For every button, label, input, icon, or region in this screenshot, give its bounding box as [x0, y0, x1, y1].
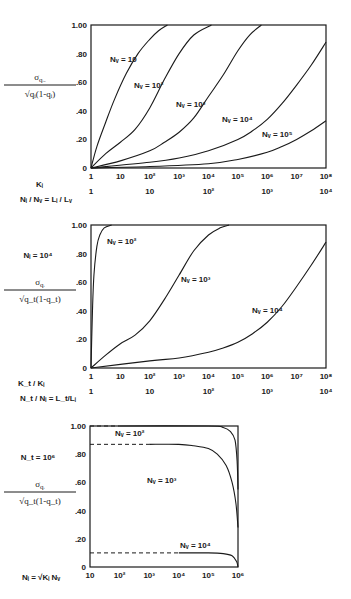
x-tick-label: 10³ — [173, 372, 185, 381]
y-axis-label-denominator: √qᵢ(1-qᵢ) — [25, 89, 55, 99]
series-annotation: Nᵥ = 10³ — [181, 275, 211, 284]
plot-frame — [90, 426, 238, 567]
y-axis-label-numerator: σqᵢ — [35, 479, 45, 491]
x-tick-label-secondary: 10 — [145, 187, 154, 196]
series-line — [91, 25, 261, 168]
y-tick-label: .20 — [75, 535, 87, 544]
x-tick-label: 10 — [116, 172, 125, 181]
x-tick-label-secondary: 10⁴ — [320, 387, 333, 396]
series-annotation: Nᵥ = 10² — [134, 81, 164, 90]
x-tick-label: 10³ — [173, 172, 185, 181]
x-tick-label: 10⁵ — [232, 172, 245, 181]
series-annotation: Nᵥ = 10⁴ — [222, 115, 253, 124]
x-tick-label-secondary: 10³ — [261, 187, 273, 196]
series-annotation: Nᵥ = 10³ — [147, 476, 177, 485]
x-tick-label: 10⁶ — [261, 172, 274, 181]
x-tick-label: 10⁵ — [202, 571, 215, 580]
series-line — [149, 444, 238, 527]
x-tick-label: 10⁶ — [261, 372, 274, 381]
chart-top: 0.20.40.60.801.0011010²10³10⁴10⁵10⁶10⁷10… — [4, 21, 333, 204]
x-tick-label: 1 — [89, 172, 94, 181]
y-tick-label: .40 — [76, 107, 88, 116]
x-tick-label-secondary: 10⁴ — [320, 187, 333, 196]
x-tick-label-secondary: 10³ — [261, 387, 273, 396]
x-axis-label-secondary: Nᵢ / Nᵥ = Lᵢ / Lᵥ — [20, 195, 72, 204]
series-line — [91, 225, 112, 368]
x-tick-label: 10⁴ — [172, 571, 185, 580]
y-tick-label: .60 — [76, 78, 88, 87]
y-axis-label-denominator: √q_t(1-q_t) — [19, 496, 60, 506]
y-tick-label: .60 — [75, 478, 87, 487]
chart-middle: 0.20.40.60.801.0011010²10³10⁴10⁵10⁶10⁷10… — [4, 221, 333, 403]
x-tick-label-secondary: 10² — [203, 187, 215, 196]
series-line — [179, 553, 238, 567]
y-axis-label-numerator: σqᵢᵥ — [34, 72, 47, 84]
x-tick-label: 10⁴ — [202, 372, 215, 381]
x-tick-label: 10⁷ — [291, 172, 303, 181]
parameter-label: N_t = 10⁶ — [21, 453, 56, 462]
series-line — [91, 242, 326, 368]
x-tick-label: 10² — [144, 372, 156, 381]
x-tick-label: 10⁸ — [320, 372, 333, 381]
y-tick-label: .80 — [76, 250, 88, 259]
x-tick-label: 10³ — [143, 571, 155, 580]
series-annotation: Nᵥ = 10² — [107, 237, 137, 246]
y-tick-label: .20 — [76, 135, 88, 144]
figure: 0.20.40.60.801.0011010²10³10⁴10⁵10⁶10⁷10… — [0, 0, 351, 599]
series-line — [91, 225, 229, 368]
series-annotation: Nᵥ = 10⁴ — [180, 541, 211, 550]
x-tick-label: 1 — [89, 372, 94, 381]
x-tick-label: 10² — [114, 571, 126, 580]
x-tick-label-secondary: 10 — [145, 387, 154, 396]
y-tick-label: 1.00 — [71, 221, 87, 230]
y-tick-label: 0 — [83, 164, 88, 173]
x-tick-label-secondary: 1 — [89, 187, 94, 196]
chart-bottom: 0.20.40.60.801.001010²10³10⁴10⁵10⁶Nᵥ = 1… — [4, 422, 245, 582]
x-tick-label: 10⁸ — [320, 172, 333, 181]
series-annotation: Nᵥ = 10⁴ — [252, 306, 283, 315]
y-axis-label-denominator: √q_t(1-q_t) — [19, 294, 60, 304]
series-annotation: Nᵥ = 10⁵ — [262, 130, 293, 139]
y-tick-label: .60 — [76, 278, 88, 287]
x-axis-label-secondary: N_t / Nᵢ = L_t/Lᵢ — [20, 394, 76, 403]
x-tick-label: 10² — [144, 172, 156, 181]
x-tick-label: 10⁵ — [232, 372, 245, 381]
series-annotation: Nᵥ = 10 — [110, 55, 137, 64]
series-annotation: Nᵥ = 10² — [115, 429, 145, 438]
y-tick-label: .80 — [75, 450, 87, 459]
x-tick-label: 10⁴ — [202, 172, 215, 181]
x-tick-label: 10⁶ — [232, 571, 245, 580]
y-axis-label-numerator: σqᵢ — [35, 277, 45, 289]
y-tick-label: 1.00 — [71, 21, 87, 30]
x-axis-label: Nᵢ = √Kᵢ Nᵥ — [22, 573, 60, 582]
x-tick-label: 10 — [116, 372, 125, 381]
x-tick-label-secondary: 10² — [203, 387, 215, 396]
y-tick-label: 0 — [83, 364, 88, 373]
y-tick-label: .80 — [76, 50, 88, 59]
y-tick-label: .40 — [76, 307, 88, 316]
series-annotation: Nᵥ = 10³ — [176, 100, 206, 109]
series-line — [91, 121, 326, 168]
parameter-label: Nᵢ = 10⁴ — [24, 251, 53, 260]
x-tick-label: 10 — [86, 571, 95, 580]
x-tick-label-secondary: 1 — [89, 387, 94, 396]
y-tick-label: .20 — [76, 335, 88, 344]
series-line — [91, 25, 211, 168]
x-tick-label: 10⁷ — [291, 372, 303, 381]
y-tick-label: 1.00 — [70, 422, 86, 431]
plot-frame — [91, 225, 326, 368]
y-tick-label: .40 — [75, 507, 87, 516]
x-axis-label: Kᵢ — [36, 180, 43, 189]
x-axis-label: K_t / Kᵢ — [18, 379, 44, 388]
